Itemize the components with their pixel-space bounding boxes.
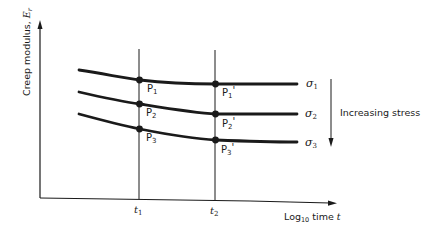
x-axis-segment [250,201,330,203]
label-sigma-2: σ2 [305,107,317,121]
point-p1 [136,77,143,84]
label-p3: P3 [146,132,157,145]
point-p1-prime [212,81,219,88]
label-p1: P1 [147,83,158,96]
curve-sigma-3 [79,114,297,142]
x-axis-arrow-icon [328,201,337,206]
stress-curves [79,70,297,142]
label-p2: P2 [146,107,157,120]
x-axis [40,198,250,201]
arrow-down-icon [329,138,334,147]
y-axis-label: Creep modulus, Er [21,7,34,96]
curve-sigma-2 [79,92,297,114]
t1-label: t1 [134,204,143,217]
label-p1-prime: P1' [222,85,235,100]
curve-sigma-1 [79,70,297,84]
t2-label: t2 [210,205,219,218]
label-sigma-1: σ1 [306,77,318,91]
label-p3-prime: P3' [221,142,234,157]
label-sigma-3: σ3 [305,136,317,150]
point-p2-prime [212,111,219,118]
point-p3-prime [212,137,219,144]
label-p2-prime: P2' [222,116,235,131]
y-axis-arrow-icon [38,20,43,29]
creep-diagram: Creep modulus, Er t1 t2 Log10 time t P1 … [0,0,440,230]
increasing-stress-label: Increasing stress [340,107,420,118]
point-p2 [136,101,143,108]
point-p3 [136,126,143,133]
x-axis-label: Log10 time t [284,211,341,224]
